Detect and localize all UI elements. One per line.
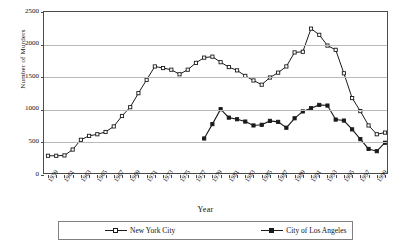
data-point-marker: [244, 120, 247, 123]
data-point-marker: [285, 65, 288, 68]
filled-square-marker-icon: [261, 227, 283, 235]
data-point-marker: [178, 73, 181, 76]
y-tick-mark: [41, 142, 44, 143]
gridline: [44, 77, 387, 78]
data-point-marker: [318, 103, 321, 106]
data-point-marker: [129, 106, 132, 109]
data-point-marker: [367, 147, 370, 150]
data-point-marker: [145, 78, 148, 81]
data-point-marker: [342, 72, 345, 75]
y-axis-tick-label: 2500: [5, 8, 39, 15]
data-point-marker: [383, 131, 386, 134]
chart-legend: New York City City of Los Angeles: [58, 221, 353, 240]
data-point-marker: [293, 117, 296, 120]
y-tick-mark: [41, 12, 44, 13]
plot-area: [43, 11, 388, 174]
data-point-marker: [342, 119, 345, 122]
data-point-marker: [120, 114, 123, 117]
data-point-marker: [359, 138, 362, 141]
data-point-marker: [318, 33, 321, 36]
data-point-marker: [96, 133, 99, 136]
data-point-marker: [219, 61, 222, 64]
data-point-marker: [161, 66, 164, 69]
data-point-marker: [79, 138, 82, 141]
data-point-marker: [235, 69, 238, 72]
data-point-marker: [104, 130, 107, 133]
data-point-marker: [227, 116, 230, 119]
data-point-marker: [260, 123, 263, 126]
x-axis-title: Year: [0, 205, 411, 214]
y-tick-mark: [41, 175, 44, 176]
data-point-marker: [203, 137, 206, 140]
data-point-marker: [277, 120, 280, 123]
y-axis-tick-label: 2000: [5, 40, 39, 47]
data-point-marker: [334, 118, 337, 121]
data-point-marker: [170, 68, 173, 71]
y-axis-tick-label: 1000: [5, 105, 39, 112]
data-point-marker: [153, 65, 156, 68]
data-point-marker: [293, 51, 296, 54]
data-point-marker: [252, 79, 255, 82]
data-point-marker: [211, 123, 214, 126]
y-axis-tick-label: 1500: [5, 73, 39, 80]
data-point-marker: [211, 55, 214, 58]
data-point-marker: [268, 119, 271, 122]
data-point-marker: [63, 154, 66, 157]
data-point-marker: [334, 48, 337, 51]
data-point-marker: [309, 27, 312, 30]
data-point-marker: [235, 118, 238, 121]
legend-label-new-york-city: New York City: [130, 226, 175, 235]
data-point-marker: [375, 133, 378, 136]
data-point-marker: [112, 125, 115, 128]
data-point-marker: [301, 50, 304, 53]
gridline: [44, 142, 387, 143]
gridline: [44, 45, 387, 46]
data-point-marker: [260, 83, 263, 86]
data-point-marker: [326, 104, 329, 107]
murder-statistics-line-chart: Number of Murders 05001000150020002500 1…: [0, 0, 411, 247]
data-point-marker: [252, 124, 255, 127]
series-layer: [44, 12, 389, 175]
y-tick-mark: [41, 110, 44, 111]
data-point-marker: [203, 56, 206, 59]
data-point-marker: [375, 150, 378, 153]
series-line-city-of-los-angeles: [204, 105, 385, 151]
y-tick-mark: [41, 45, 44, 46]
open-square-marker-icon: [105, 227, 127, 235]
legend-item-new-york-city[interactable]: New York City: [105, 226, 175, 235]
y-axis-title: Number of Murders: [19, 4, 27, 114]
data-point-marker: [227, 65, 230, 68]
data-point-marker: [277, 71, 280, 74]
data-point-marker: [46, 154, 49, 157]
legend-item-city-of-los-angeles[interactable]: City of Los Angeles: [261, 226, 346, 235]
data-point-marker: [137, 92, 140, 95]
data-point-marker: [55, 154, 58, 157]
data-point-marker: [367, 124, 370, 127]
data-point-marker: [351, 96, 354, 99]
data-point-marker: [88, 134, 91, 137]
data-point-marker: [194, 61, 197, 64]
gridline: [44, 110, 387, 111]
data-point-marker: [285, 126, 288, 129]
y-axis-tick-label: 500: [5, 138, 39, 145]
y-axis-tick-label: 0: [5, 171, 39, 178]
series-line-new-york-city: [48, 29, 385, 156]
y-tick-mark: [41, 77, 44, 78]
data-point-marker: [351, 128, 354, 131]
data-point-marker: [186, 68, 189, 71]
data-point-marker: [71, 148, 74, 151]
legend-label-city-of-los-angeles: City of Los Angeles: [286, 226, 346, 235]
